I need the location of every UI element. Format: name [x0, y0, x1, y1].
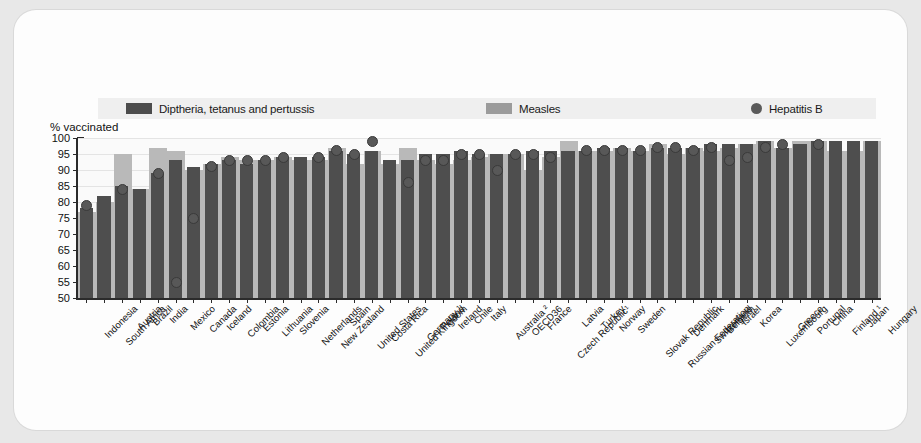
legend-item-dtp: Diptheria, tetanus and pertussis: [126, 100, 314, 117]
bar-dtp: [829, 141, 842, 298]
chart-legend: Diptheria, tetanus and pertussis Measles…: [98, 98, 876, 119]
bar-dtp: [115, 186, 128, 298]
chart-bar-group: [542, 138, 560, 298]
y-axis-tick-label: 95: [58, 149, 70, 160]
x-axis-label: Korea: [758, 303, 784, 329]
chart-bar-group: [845, 138, 863, 298]
chart-bar-group: [756, 138, 774, 298]
legend-label-measles: Measles: [519, 103, 560, 115]
bar-dtp: [454, 151, 467, 298]
marker-hepatitis-b: [349, 149, 360, 160]
chart-bar-group: [274, 138, 292, 298]
chart-bar-group: [221, 138, 239, 298]
chart-bar-group: [720, 138, 738, 298]
chart-bar-group: [417, 138, 435, 298]
chart-bar-group: [667, 138, 685, 298]
bar-dtp: [222, 160, 235, 298]
bar-dtp: [258, 160, 271, 298]
legend-label-dtp: Diptheria, tetanus and pertussis: [159, 103, 314, 115]
legend-label-hepatitisb: Hepatitis B: [769, 103, 822, 115]
chart-bar-group: [167, 138, 185, 298]
chart-bar-group: [863, 138, 881, 298]
chart-bar-group: [613, 138, 631, 298]
y-axis-tick-label: 100: [52, 133, 70, 144]
chart-plot-area: 50556065707580859095100: [76, 138, 881, 300]
bar-dtp: [508, 154, 521, 298]
bar-dtp: [365, 151, 378, 298]
y-axis-tick-label: 70: [58, 229, 70, 240]
chart-bar-group: [399, 138, 417, 298]
chart-bar-group: [364, 138, 382, 298]
chart-bar-group: [453, 138, 471, 298]
marker-hepatitis-b: [724, 155, 735, 166]
marker-hepatitis-b: [617, 145, 628, 156]
marker-hepatitis-b: [474, 149, 485, 160]
bar-dtp: [187, 167, 200, 298]
chart-bar-group: [149, 138, 167, 298]
bar-dtp: [151, 173, 164, 298]
bar-dtp: [205, 164, 218, 298]
bar-dtp: [615, 148, 628, 298]
chart-bar-group: [810, 138, 828, 298]
bar-dtp: [651, 148, 664, 298]
marker-hepatitis-b: [367, 136, 378, 147]
marker-hepatitis-b: [260, 155, 271, 166]
chart-bar-group: [328, 138, 346, 298]
bar-dtp: [865, 141, 878, 298]
bar-dtp: [490, 154, 503, 298]
bar-dtp: [633, 151, 646, 298]
x-axis-label: China: [829, 303, 855, 329]
chart-bar-group: [506, 138, 524, 298]
chart-card: Diptheria, tetanus and pertussis Measles…: [14, 10, 907, 430]
marker-hepatitis-b: [188, 213, 199, 224]
legend-item-hepatitisb: Hepatitis B: [743, 100, 822, 117]
chart-bar-group: [774, 138, 792, 298]
bar-dtp: [419, 154, 432, 298]
bar-dtp: [329, 151, 342, 298]
bar-dtp: [133, 189, 146, 298]
bar-dtp: [97, 196, 110, 298]
marker-hepatitis-b: [706, 142, 717, 153]
x-axis-labels: IndonesiaSouth AfricaAustriaBrazilIndiaM…: [76, 303, 881, 375]
marker-hepatitis-b: [510, 149, 521, 160]
y-axis-tick-label: 55: [58, 277, 70, 288]
chart-bar-group: [560, 138, 578, 298]
chart-bar-group: [827, 138, 845, 298]
marker-hepatitis-b: [153, 168, 164, 179]
bar-dtp: [436, 154, 449, 298]
chart-bar-group: [595, 138, 613, 298]
marker-hepatitis-b: [742, 152, 753, 163]
chart-bar-group: [132, 138, 150, 298]
y-axis-tick-label: 90: [58, 165, 70, 176]
bar-dtp: [811, 141, 824, 298]
bar-dtp: [294, 157, 307, 298]
bar-dtp: [740, 144, 753, 298]
marker-hepatitis-b: [760, 142, 771, 153]
marker-hepatitis-b: [528, 149, 539, 160]
marker-hepatitis-b: [403, 177, 414, 188]
bar-dtp: [793, 144, 806, 298]
marker-hepatitis-b: [278, 152, 289, 163]
chart-bar-group: [703, 138, 721, 298]
marker-hepatitis-b: [242, 155, 253, 166]
y-axis-tick-label: 75: [58, 213, 70, 224]
bar-dtp: [383, 160, 396, 298]
marker-hepatitis-b: [117, 184, 128, 195]
bar-dtp: [722, 144, 735, 298]
x-axis-label: Hungary: [886, 303, 919, 336]
bar-dtp: [704, 144, 717, 298]
y-axis-tick-label: 60: [58, 261, 70, 272]
chart-bar-group: [346, 138, 364, 298]
y-axis-tick-label: 50: [58, 293, 70, 304]
marker-hepatitis-b: [492, 165, 503, 176]
y-axis-tick-label: 65: [58, 245, 70, 256]
chart-bar-group: [649, 138, 667, 298]
chart-bar-group: [631, 138, 649, 298]
chart-bar-group: [78, 138, 96, 298]
marker-hepatitis-b: [171, 277, 182, 288]
legend-swatch-measles-icon: [486, 103, 512, 114]
chart-bar-group: [96, 138, 114, 298]
y-axis-tick-label: 80: [58, 197, 70, 208]
chart-bar-group: [738, 138, 756, 298]
marker-hepatitis-b: [635, 145, 646, 156]
